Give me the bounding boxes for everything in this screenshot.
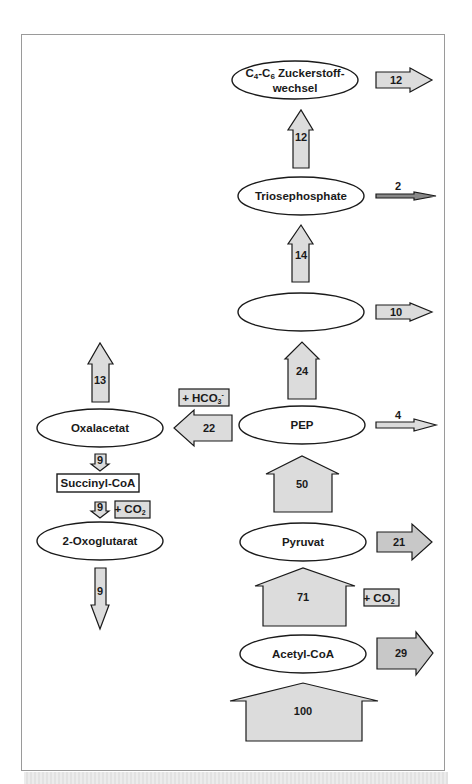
- node-triosephosphate: Triosephosphate: [238, 177, 364, 215]
- flux-value: 71: [297, 591, 309, 603]
- flux-value: 9: [97, 454, 103, 466]
- flux-arrow-pep-to-phosphoglycerat: 24: [285, 342, 319, 399]
- node-label: Triosephosphate: [255, 190, 347, 202]
- flux-arrow-pep-out: 4: [376, 409, 436, 431]
- cofactor-co2-tca: + CO2: [114, 501, 150, 518]
- node-2-oxoglutarat: 2-Oxoglutarat: [37, 522, 163, 560]
- flux-arrow-triose-to-sugar: 12: [288, 110, 313, 168]
- node-pep: PEP: [239, 406, 365, 444]
- flux-arrow-triose-out: 2: [376, 180, 436, 200]
- node-succinyl-coa: Succinyl-CoA: [57, 474, 139, 492]
- flux-value: 4: [395, 409, 402, 421]
- flux-arrow-oxoglutarat-out: 9: [91, 568, 109, 629]
- flux-arrow-input-acetyl-coa: 100: [230, 683, 378, 741]
- flux-arrow-phosphoglycerat-out: 10: [376, 303, 432, 321]
- node-label: 2-Oxoglutarat: [63, 535, 138, 547]
- cofactor-co2-pyruvat: + CO2: [363, 589, 399, 606]
- cofactor-label: + CO2: [114, 503, 145, 516]
- node-pyruvat: Pyruvat: [240, 523, 366, 561]
- node-3-phosphoglycerat: [238, 293, 364, 331]
- cofactor-label: + CO2: [363, 592, 394, 605]
- flux-diagram: C4-C6 Zuckerstoff- wechsel 12 12 Triosep…: [0, 0, 472, 784]
- flux-value: 100: [294, 705, 312, 717]
- flux-value: 13: [94, 374, 106, 386]
- flux-arrow-acetyl-coa-out: 29: [377, 632, 433, 675]
- flux-value: 12: [295, 131, 307, 143]
- flux-value: 12: [390, 74, 402, 86]
- flux-value: 50: [296, 478, 308, 490]
- flux-arrow-pyruvat-to-pep: 50: [266, 456, 339, 512]
- flux-arrow-acetyl-coa-to-pyruvat: 71: [255, 568, 355, 626]
- flux-value: 21: [393, 536, 405, 548]
- flux-value: 24: [296, 365, 309, 377]
- flux-arrow-pyruvat-out: 21: [377, 524, 432, 560]
- flux-value: 22: [203, 422, 215, 434]
- flux-arrow-pep-to-oxalacetat: 22: [174, 410, 232, 446]
- flux-arrow-sugar-out: 12: [376, 68, 432, 92]
- node-sugar-metabolism: C4-C6 Zuckerstoff- wechsel: [232, 61, 358, 99]
- flux-arrow-succinyl-to-oxoglutarat: 9: [91, 501, 109, 518]
- flux-value: 9: [97, 501, 103, 513]
- flux-value: 10: [390, 306, 402, 318]
- cofactor-hco3: + HCO3-: [179, 389, 229, 406]
- node-label: PEP: [290, 419, 313, 431]
- flux-arrow-phosphoglycerat-to-triose: 14: [288, 225, 313, 282]
- flux-arrow-oxalacetat-to-succinyl: 9: [91, 454, 109, 471]
- flux-value: 9: [97, 585, 103, 597]
- node-sugar-metabolism-line1: C4-C6 Zuckerstoff-: [245, 67, 344, 81]
- flux-value: 2: [395, 180, 401, 192]
- flux-arrow-oxalacetat-up: 13: [88, 343, 113, 402]
- node-label: Succinyl-CoA: [61, 477, 136, 489]
- flux-value: 29: [395, 647, 407, 659]
- node-label: Pyruvat: [282, 536, 324, 548]
- node-sugar-metabolism-line2: wechsel: [272, 82, 318, 94]
- flux-value: 14: [295, 249, 308, 261]
- node-acetyl-coa: Acetyl-CoA: [240, 635, 366, 673]
- node-label: Oxalacetat: [71, 422, 129, 434]
- node-label: Acetyl-CoA: [272, 648, 334, 660]
- node-oxalacetat: Oxalacetat: [37, 409, 163, 447]
